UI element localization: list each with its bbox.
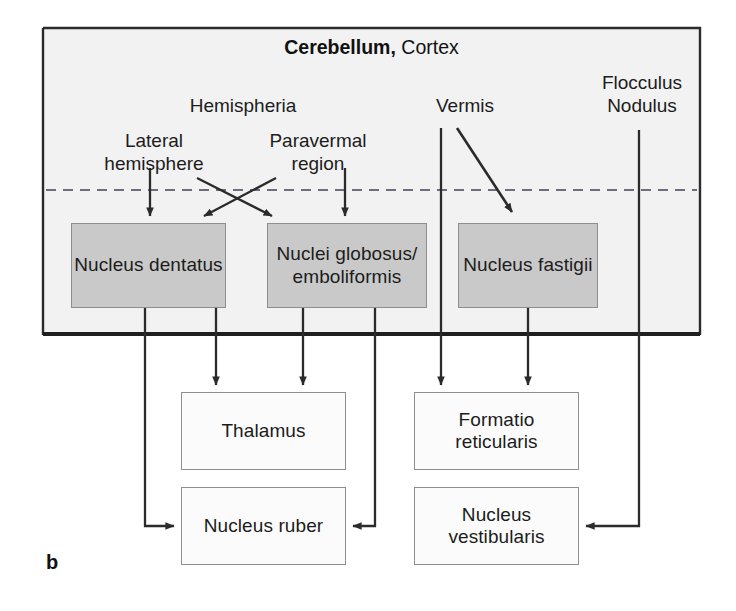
node-nucleus-dentatus-label: Nucleus dentatus	[74, 254, 222, 276]
node-nucleus-dentatus[interactable]: Nucleus dentatus	[71, 223, 226, 308]
node-nuclei-globosus-emboliformis[interactable]: Nuclei globosus/ emboliformis	[267, 223, 427, 308]
node-nucleus-vestibularis-label: Nucleus vestibularis	[415, 504, 578, 549]
panel-title-bold: Cerebellum,	[284, 36, 396, 58]
cerebellum-connectivity-figure: Cerebellum, Cortex Hemispheria Vermis Fl…	[0, 0, 736, 611]
panel-title-rest: Cortex	[396, 36, 459, 58]
figure-letter: b	[46, 551, 58, 574]
node-nucleus-ruber[interactable]: Nucleus ruber	[181, 487, 346, 565]
node-thalamus-label: Thalamus	[221, 420, 305, 442]
label-flocculus-nodulus: Flocculus Nodulus	[578, 72, 706, 118]
node-nucleus-fastigii-label: Nucleus fastigii	[463, 254, 592, 276]
node-formatio-reticularis[interactable]: Formatio reticularis	[414, 392, 579, 470]
node-thalamus[interactable]: Thalamus	[181, 392, 346, 470]
node-formatio-reticularis-label: Formatio reticularis	[415, 409, 578, 454]
node-nucleus-ruber-label: Nucleus ruber	[204, 515, 324, 537]
label-vermis: Vermis	[410, 95, 520, 118]
label-paravermal-region: Paravermal region	[248, 130, 388, 176]
line-dentatus-to-ruber	[145, 308, 174, 526]
label-hemispheria: Hemispheria	[158, 95, 328, 118]
label-lateral-hemisphere: Lateral hemisphere	[84, 130, 224, 176]
node-nuclei-globosus-emboliformis-label: Nuclei globosus/ emboliformis	[268, 243, 426, 288]
line-globosus-to-ruber	[353, 308, 375, 526]
node-nucleus-vestibularis[interactable]: Nucleus vestibularis	[414, 487, 579, 565]
panel-title: Cerebellum, Cortex	[43, 36, 700, 59]
node-nucleus-fastigii[interactable]: Nucleus fastigii	[458, 223, 598, 308]
